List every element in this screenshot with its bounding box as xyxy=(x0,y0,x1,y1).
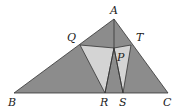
label-r: R xyxy=(99,96,108,109)
label-t: T xyxy=(136,31,145,44)
label-b: B xyxy=(7,96,16,109)
label-q: Q xyxy=(67,31,76,44)
triangle-diagram: A Q T P B R S C xyxy=(0,0,183,111)
label-c: C xyxy=(163,96,172,109)
label-s: S xyxy=(119,96,127,109)
label-a: A xyxy=(109,4,118,17)
label-p: P xyxy=(116,51,125,64)
